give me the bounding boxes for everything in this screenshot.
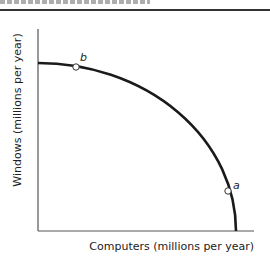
point-b-marker — [73, 64, 79, 70]
point-a-label: a — [233, 179, 240, 192]
y-axis-label: Windows (millions per year) — [11, 33, 24, 186]
ppf-curve — [38, 63, 236, 231]
x-axis-label: Computers (millions per year) — [89, 240, 254, 253]
point-b-label: b — [80, 51, 87, 64]
ppf-chart: b a Computers (millions per year) Window… — [0, 0, 270, 257]
point-a-marker — [225, 188, 231, 194]
